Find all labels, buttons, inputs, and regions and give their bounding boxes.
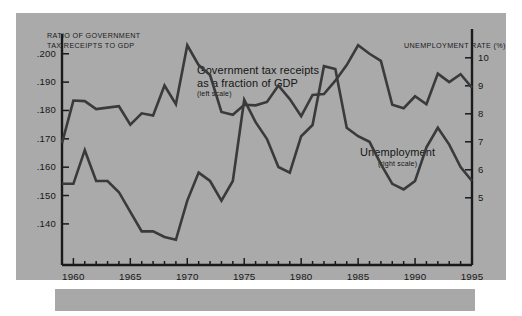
y-tick-label-right: 7 xyxy=(478,136,492,147)
series-lines xyxy=(62,45,472,240)
line-tax-receipts xyxy=(62,45,472,143)
caption-bar xyxy=(55,289,475,311)
x-tick-label: 1985 xyxy=(341,271,375,282)
y-tick-label-left: .200 xyxy=(28,48,56,59)
x-tick-label: 1965 xyxy=(113,271,147,282)
axis-lines xyxy=(62,29,472,265)
y-tick-label-right: 6 xyxy=(478,164,492,175)
axis-ticks xyxy=(62,54,472,265)
y-tick-label-left: .170 xyxy=(28,133,56,144)
y-tick-label-left: .160 xyxy=(28,161,56,172)
x-tick-label: 1990 xyxy=(398,271,432,282)
y-tick-label-right: 8 xyxy=(478,108,492,119)
x-tick-label: 1975 xyxy=(227,271,261,282)
line-unemployment xyxy=(62,66,472,240)
y-tick-label-right: 5 xyxy=(478,192,492,203)
y-tick-label-left: .180 xyxy=(28,104,56,115)
x-tick-label: 1970 xyxy=(170,271,204,282)
y-tick-label-left: .190 xyxy=(28,76,56,87)
y-tick-label-left: .140 xyxy=(28,218,56,229)
chart-plot-area xyxy=(16,13,506,280)
y-tick-label-right: 9 xyxy=(478,80,492,91)
chart-figure: RATIO OF GOVERNMENTTAX RECEIPTS TO GDP U… xyxy=(0,0,522,316)
chart-panel: RATIO OF GOVERNMENTTAX RECEIPTS TO GDP U… xyxy=(16,13,506,280)
x-tick-label: 1980 xyxy=(284,271,318,282)
y-tick-label-left: .150 xyxy=(28,190,56,201)
x-tick-label: 1995 xyxy=(455,271,489,282)
x-tick-label: 1960 xyxy=(56,271,90,282)
y-tick-label-right: 10 xyxy=(478,52,492,63)
